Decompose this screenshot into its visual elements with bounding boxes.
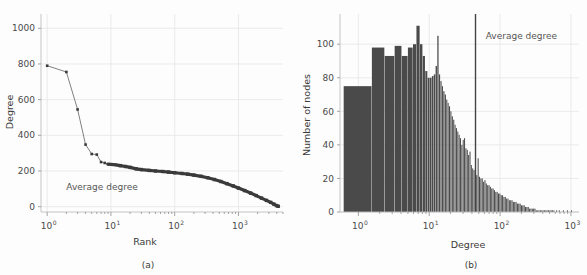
histogram-bar (416, 26, 419, 212)
panel-a-caption: (a) (142, 260, 155, 270)
histogram-bar (480, 178, 481, 212)
panel-b-svg: 020406080100 100101102103 Average degree… (293, 0, 587, 275)
histogram-bar (423, 56, 425, 212)
panel-b-ylabel: Number of nodes (301, 74, 312, 156)
panel-a-ytick-0: 0 (29, 202, 35, 212)
data-point (95, 153, 98, 156)
histogram-bar (478, 158, 479, 212)
histogram-bar (463, 140, 464, 212)
svg-text:10: 10 (423, 221, 435, 231)
svg-text:0: 0 (364, 219, 368, 226)
histogram-bar (474, 170, 475, 212)
data-point (46, 64, 49, 67)
histogram-bar (425, 71, 427, 212)
histogram-bar (512, 200, 513, 212)
data-point (103, 162, 106, 165)
histogram-bar (522, 205, 523, 212)
panel-b-caption: (b) (465, 260, 478, 270)
panel-b-ytick-100: 100 (317, 39, 334, 49)
histogram-bar (486, 183, 487, 212)
histogram-bar (532, 209, 533, 212)
histogram-bar (437, 36, 438, 212)
histogram-bar (455, 125, 456, 212)
panel-a-xtick-1e2: 102 (168, 219, 184, 232)
histogram-bar (484, 180, 485, 212)
histogram-bar (457, 131, 458, 212)
panel-a-xtick-1e0: 100 (41, 219, 57, 232)
histogram-bar (520, 204, 521, 212)
histogram-bar (529, 209, 530, 212)
histogram-bar (509, 200, 510, 212)
data-point (76, 108, 79, 111)
histogram-bar (510, 200, 511, 212)
svg-text:3: 3 (244, 219, 248, 226)
panel-b-ytick-20: 20 (323, 174, 335, 184)
histogram-bar (467, 150, 468, 212)
svg-text:10: 10 (168, 221, 180, 231)
data-point (84, 143, 87, 146)
data-point (65, 71, 68, 74)
panel-a-xtick-1e1: 101 (104, 219, 120, 232)
panel-a-svg: 02004006008001000 100101102103 Average d… (0, 0, 293, 275)
histogram-bar (459, 135, 460, 212)
figure-container: 02004006008001000 100101102103 Average d… (0, 0, 587, 275)
histogram-bar (506, 199, 507, 212)
panel-b-x-tick-labels: 100101102103 (352, 219, 580, 232)
histogram-bar (534, 209, 535, 212)
svg-text:10: 10 (352, 221, 364, 231)
histogram-bar (476, 175, 477, 212)
histogram-bar (472, 168, 473, 212)
panel-b-xlabel: Degree (451, 239, 486, 250)
histogram-bar (469, 152, 470, 212)
histogram-bar (487, 185, 488, 212)
panel-a-xlabel: Rank (133, 236, 157, 247)
svg-text:0: 0 (53, 219, 57, 226)
histogram-bar (456, 128, 457, 212)
histogram-bar (526, 207, 527, 212)
svg-text:10: 10 (41, 221, 53, 231)
panel-a-xtick-1e3: 103 (232, 219, 248, 232)
svg-text:10: 10 (232, 221, 244, 231)
panel-b-ytick-60: 60 (323, 107, 335, 117)
histogram-bar (507, 199, 508, 212)
svg-text:1: 1 (435, 219, 439, 226)
histogram-bar (524, 205, 525, 212)
histogram-bar (452, 116, 453, 212)
panel-b-xtick-1e2: 102 (494, 219, 510, 232)
svg-text:1: 1 (116, 219, 120, 226)
histogram-bar (372, 48, 384, 212)
panel-b-degree-distribution: 020406080100 100101102103 Average degree… (293, 0, 587, 275)
histogram-bar (498, 194, 499, 212)
histogram-bar (408, 48, 413, 212)
histogram-bar (497, 192, 498, 212)
histogram-bar (448, 103, 449, 212)
histogram-bar (385, 56, 395, 212)
histogram-bar (502, 195, 503, 212)
svg-text:10: 10 (104, 221, 116, 231)
histogram-bar (439, 74, 440, 212)
panel-b-y-tick-labels: 020406080100 (317, 39, 334, 217)
histogram-bar (495, 192, 496, 212)
histogram-bar (450, 111, 451, 212)
histogram-bar (446, 100, 447, 212)
average-degree-annotation-a: Average degree (66, 182, 138, 192)
histogram-bar (516, 202, 517, 212)
histogram-bar (420, 44, 422, 212)
histogram-bar (499, 194, 500, 212)
histogram-bar (518, 204, 519, 212)
histogram-bar (395, 46, 402, 212)
histogram-bar (468, 155, 469, 212)
histogram-bar (443, 91, 444, 212)
average-degree-annotation-b: Average degree (486, 31, 558, 41)
histogram-bar (505, 197, 506, 212)
svg-text:2: 2 (180, 219, 184, 226)
histogram-bar (521, 205, 522, 212)
histogram-bar (517, 204, 518, 212)
histogram-bar (513, 202, 514, 212)
panel-a-y-tick-labels: 02004006008001000 (12, 23, 35, 211)
data-point (90, 153, 93, 156)
histogram-bar (501, 195, 502, 212)
svg-text:2: 2 (506, 219, 510, 226)
histogram-bar (440, 81, 441, 212)
panel-b-xtick-1e3: 103 (564, 219, 580, 232)
